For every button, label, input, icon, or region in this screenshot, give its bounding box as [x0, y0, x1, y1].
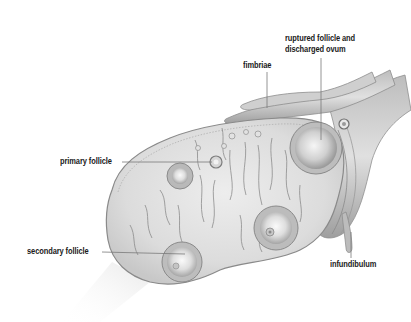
label-ruptured-line2: discharged ovum	[285, 44, 355, 55]
label-ruptured-follicle: ruptured follicle and discharged ovum	[285, 33, 355, 55]
label-fimbriae: fimbriae	[243, 60, 271, 71]
label-secondary-follicle: secondary follicle	[27, 246, 89, 257]
label-ruptured-line1: ruptured follicle and	[285, 33, 355, 44]
label-primary-follicle: primary follicle	[60, 156, 112, 167]
label-infundibulum: infundibulum	[330, 259, 376, 270]
ovary-diagram: ruptured follicle and discharged ovum fi…	[0, 0, 411, 322]
